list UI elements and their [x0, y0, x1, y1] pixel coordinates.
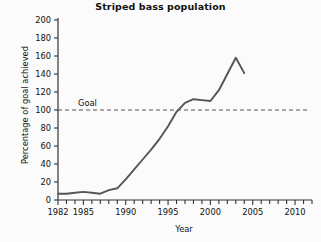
y-tick-label: 200 — [35, 15, 51, 25]
y-tick-label: 120 — [35, 87, 51, 97]
y-tick-label: 60 — [40, 141, 51, 151]
goal-line-label: Goal — [78, 98, 97, 108]
plot-area: 020406080100120140160180200 198219851990… — [0, 0, 321, 242]
y-axis-ticks: 020406080100120140160180200 — [35, 15, 58, 205]
y-tick-label: 20 — [40, 177, 51, 187]
y-tick-label: 80 — [40, 123, 51, 133]
x-tick-label: 1995 — [158, 207, 179, 217]
x-tick-label: 2000 — [200, 207, 221, 217]
y-tick-label: 160 — [35, 51, 51, 61]
x-tick-label: 1982 — [47, 207, 68, 217]
y-tick-label: 40 — [40, 159, 51, 169]
y-tick-label: 180 — [35, 33, 51, 43]
x-tick-label: 1985 — [73, 207, 94, 217]
x-axis-ticks: 1982198519901995200020052010 — [47, 200, 312, 217]
x-tick-label: 2005 — [242, 207, 263, 217]
y-tick-label: 100 — [35, 105, 51, 115]
data-series-line — [58, 58, 244, 194]
x-tick-label: 2010 — [285, 207, 306, 217]
x-tick-label: 1990 — [115, 207, 136, 217]
chart-container: Striped bass population Percentage of go… — [0, 0, 321, 242]
y-tick-label: 140 — [35, 69, 51, 79]
y-tick-label: 0 — [46, 195, 51, 205]
